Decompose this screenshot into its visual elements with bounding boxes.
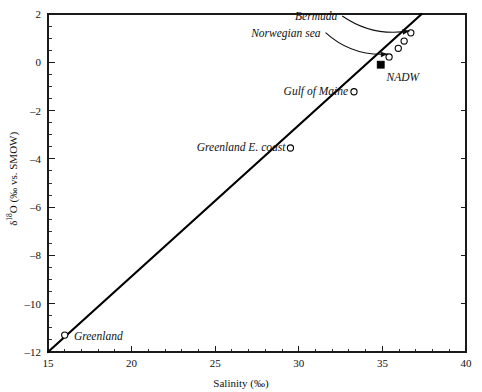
y-axis-title: δ18O (‰ vs. SMOW) bbox=[5, 109, 19, 249]
annotation-label: Norwegian sea bbox=[250, 27, 321, 40]
y-tick-label: –12 bbox=[24, 346, 42, 358]
y-tick-label: –2 bbox=[29, 105, 41, 117]
marker-filled-square bbox=[377, 61, 384, 68]
x-tick-label: 20 bbox=[126, 357, 138, 369]
marker-open-circle bbox=[395, 45, 401, 51]
y-tick-label: 0 bbox=[36, 56, 42, 68]
x-tick-label: 30 bbox=[293, 357, 305, 369]
y-tick-label: –6 bbox=[29, 201, 42, 213]
x-tick-label: 25 bbox=[210, 357, 222, 369]
annotation-label: Greenland bbox=[74, 330, 123, 342]
x-tick-label: 40 bbox=[461, 357, 473, 369]
chart-background bbox=[0, 0, 482, 392]
y-tick-label: 2 bbox=[36, 8, 42, 20]
marker-open-circle bbox=[401, 38, 407, 44]
marker-open-circle bbox=[287, 145, 293, 151]
x-axis-title: Salinity (‰) bbox=[0, 377, 482, 389]
annotation-label: Greenland E. coast bbox=[197, 141, 286, 153]
marker-open-circle bbox=[351, 89, 357, 95]
annotation-label: Bermuda bbox=[295, 10, 337, 22]
annotation-label: Gulf of Maine bbox=[284, 85, 349, 98]
x-tick-label: 15 bbox=[43, 357, 55, 369]
y-tick-label: –8 bbox=[29, 249, 42, 261]
marker-open-circle bbox=[62, 332, 68, 338]
marker-open-circle bbox=[386, 54, 392, 60]
x-tick-label: 35 bbox=[377, 357, 389, 369]
annotation-label: NADW bbox=[386, 71, 421, 83]
salinity-delta18o-chart: 152025303540 20–2–4–6–8–10–12 BermudaNor… bbox=[0, 0, 482, 392]
y-tick-label: –10 bbox=[24, 298, 42, 310]
y-tick-label: –4 bbox=[29, 153, 42, 165]
